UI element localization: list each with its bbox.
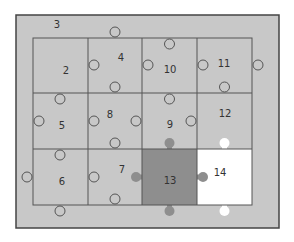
piece-8-label: 8 (107, 109, 113, 120)
piece-14-label: 14 (214, 167, 227, 178)
piece-7-label: 7 (119, 164, 125, 175)
piece-2-label: 2 (63, 65, 69, 76)
piece-9-label: 9 (167, 119, 173, 130)
piece-10-label: 10 (164, 64, 177, 75)
piece-12-label: 12 (219, 108, 232, 119)
piece-11-label: 11 (218, 58, 231, 69)
jigsaw-puzzle-diagram: 3 (0, 0, 294, 242)
piece-4-label: 4 (118, 52, 124, 63)
piece-13-label: 13 (164, 175, 177, 186)
piece-6-label: 6 (59, 176, 65, 187)
piece-5-label: 5 (59, 120, 65, 131)
frame-label: 3 (54, 19, 60, 30)
